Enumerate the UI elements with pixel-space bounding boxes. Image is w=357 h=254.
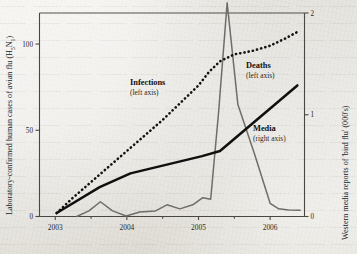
y-tick-label-left-100: 100: [22, 41, 33, 49]
annotation-deaths-sub: (left axis): [246, 71, 275, 80]
x-tick-label-2006: 2006: [263, 223, 278, 232]
annotation-deaths: Deaths (left axis): [246, 61, 275, 80]
x-tick-label-2005: 2005: [191, 223, 206, 232]
series-line-infections: [57, 32, 298, 213]
y-tick-label-right-0: 0: [311, 213, 315, 221]
annotation-deaths-label: Deaths: [246, 61, 271, 70]
y-axis-left-title: Laboratory-confirmed human cases of avia…: [5, 36, 16, 215]
series-line-deaths: [57, 85, 298, 213]
annotation-media: Media (right axis): [253, 124, 286, 143]
x-axis-tick-labels: 2003200420052006: [48, 223, 278, 232]
annotation-media-sub: (right axis): [253, 134, 286, 143]
series-line-media: [77, 3, 300, 217]
annotation-media-label: Media: [253, 124, 277, 133]
chart-canvas: 050100 012 2003200420052006 Infections (…: [0, 0, 357, 254]
y-tick-label-right-1: 1: [311, 111, 315, 119]
annotation-infections-sub: (left axis): [130, 88, 159, 97]
y-axis-left-ticks: [36, 44, 40, 216]
annotation-infections-label: Infections: [130, 78, 166, 87]
x-tick-label-2003: 2003: [48, 223, 63, 232]
y-axis-right-title: Western media reports of 'bird flu' (000…: [341, 105, 350, 240]
y-tick-label-left-50: 50: [26, 127, 34, 135]
y-tick-label-left-0: 0: [29, 213, 33, 221]
annotation-infections: Infections (left axis): [130, 78, 166, 97]
y-axis-right-tick-labels: 012: [311, 10, 315, 222]
x-tick-label-2004: 2004: [119, 223, 134, 232]
y-axis-right-title-text: Western media reports of 'bird flu' (000…: [341, 105, 350, 240]
svg-text:Laboratory-confirmed human cas: Laboratory-confirmed human cases of avia…: [5, 36, 16, 215]
y-axis-right-ticks: [305, 13, 309, 217]
y-tick-label-right-2: 2: [311, 10, 315, 18]
y-axis-left-tick-labels: 050100: [22, 41, 33, 221]
chart-figure: 050100 012 2003200420052006 Infections (…: [0, 0, 357, 254]
